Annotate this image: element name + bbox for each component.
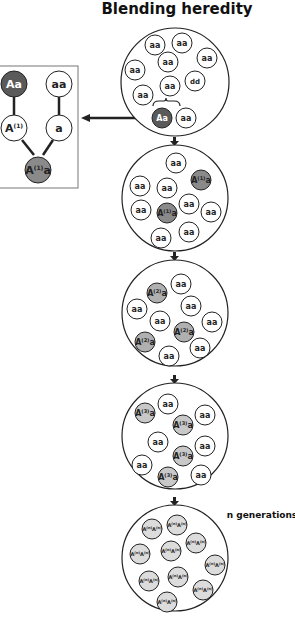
blending-heredity-diagram: Blending heredity Aa aa A(1) a A(1)a [0, 0, 295, 632]
individual: aa [137, 461, 148, 470]
individual: aa [196, 471, 207, 480]
n-generations-label: n generations [227, 510, 295, 520]
inset-gamete1: A(1) [1, 115, 27, 141]
individual: aa [177, 39, 188, 48]
individual: aa [165, 82, 176, 91]
individual: aa [176, 280, 187, 289]
population-generation-2: A(2)a aa aa aa aa A(2)a aa A(2)a aa aa [122, 260, 228, 366]
individual: aa [195, 344, 206, 353]
individual: aa [181, 114, 192, 123]
individual: aa [136, 206, 147, 215]
inset-parent1-label: Aa [6, 78, 22, 91]
inset-parent1: Aa [1, 71, 27, 97]
individual: aa [206, 208, 217, 217]
individual: aa [153, 438, 164, 447]
inset-gamete2: a [46, 115, 72, 141]
individual: dd [190, 78, 200, 86]
individual: aa [138, 91, 149, 100]
individual: aa [186, 302, 197, 311]
individual: aa [150, 41, 161, 50]
individual: aa [135, 182, 146, 191]
individual: aa [184, 200, 195, 209]
individual: aa [163, 58, 174, 67]
inset-offspring: A(1)a [25, 157, 51, 183]
inset-cross-panel: Aa aa A(1) a A(1)a [0, 66, 78, 188]
population-generation-1: aa aa aa A(1)a aa aa A(1)a aa aa aa [122, 145, 228, 251]
individual: aa [130, 66, 141, 75]
individual: aa [207, 318, 218, 327]
inset-parent2-label: aa [52, 78, 67, 91]
diagram-title: Blending heredity [101, 0, 252, 18]
individual: aa [200, 411, 211, 420]
individual: aa [171, 159, 182, 168]
inset-gamete2-label: a [55, 122, 62, 135]
population-generation-n: A(n)A(n) A(n)A(n) A(n)A(n) A(n)A(n) A(n)… [122, 505, 228, 612]
individual: aa [155, 317, 166, 326]
individual: aa [163, 400, 174, 409]
individual: aa [162, 184, 173, 193]
individual: aa [202, 54, 213, 63]
individual-selected: Aa [156, 114, 168, 123]
population-generation-0: aa aa aa aa aa aa dd aa Aa aa [121, 28, 229, 136]
individual: aa [184, 228, 195, 237]
individual: aa [164, 352, 175, 361]
individual: aa [132, 305, 143, 314]
population-generation-3: A(3)a aa A(3)a aa aa aa A(3)a aa A(3)a a… [122, 383, 228, 489]
individual: aa [156, 234, 167, 243]
inset-parent2: aa [46, 71, 72, 97]
individual: aa [200, 442, 211, 451]
